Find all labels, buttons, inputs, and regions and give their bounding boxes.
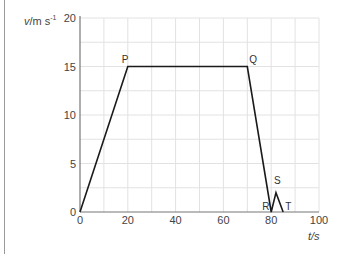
x-tick-label: 80	[265, 214, 277, 226]
point-label-r: R	[262, 201, 269, 212]
point-label-t: T	[285, 201, 291, 212]
y-tick-label: 15	[64, 61, 76, 73]
y-tick-label: 0	[70, 206, 76, 218]
x-tick-label: 100	[310, 214, 328, 226]
point-label-p: P	[122, 54, 129, 65]
y-tick-label: 10	[64, 109, 76, 121]
y-tick-label: 5	[70, 158, 76, 170]
point-label-s: S	[274, 175, 281, 186]
x-tick-label: 60	[217, 214, 229, 226]
x-tick-label: 40	[169, 214, 181, 226]
y-tick-label: 20	[64, 12, 76, 24]
point-label-q: Q	[249, 54, 257, 65]
x-tick-label: 0	[77, 214, 83, 226]
x-tick-label: 20	[122, 214, 134, 226]
chart-area: 05101520020406080100PQRST	[0, 0, 341, 254]
